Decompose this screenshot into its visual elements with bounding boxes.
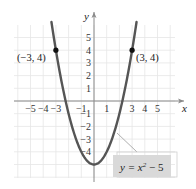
equation-label: y = x2 − 5 — [119, 161, 164, 173]
y-tick-label: 3 — [86, 57, 91, 68]
y-tick-label: 5 — [86, 32, 91, 43]
y-tick-label: −1 — [80, 108, 91, 119]
y-tick-label: 1 — [86, 83, 91, 94]
tick-labels: −5−4−3−1134554321−1−2−3−4 — [25, 32, 160, 157]
y-tick-label: 4 — [86, 45, 91, 56]
x-tick-label: −4 — [38, 103, 49, 114]
y-tick-label: −3 — [80, 134, 91, 145]
y-axis-label: y — [83, 10, 89, 22]
x-tick-label: 1 — [104, 103, 109, 114]
x-axis-label: x — [181, 102, 187, 114]
x-tick-label: 3 — [130, 103, 135, 114]
point-label-left: (−3, 4) — [17, 52, 46, 64]
x-tick-label: 4 — [142, 103, 147, 114]
callout-leader-line — [117, 133, 137, 152]
point-label-right: (3, 4) — [136, 52, 159, 64]
x-tick-label: −5 — [25, 103, 36, 114]
point-marker — [53, 48, 58, 53]
y-tick-label: 2 — [86, 70, 91, 81]
equation-callout: y = x2 − 5 — [113, 152, 177, 177]
point-marker — [130, 48, 135, 53]
parabola-chart: −5−4−3−1134554321−1−2−3−4 y = x2 − 5 (−3… — [0, 0, 196, 189]
x-tick-label: 5 — [155, 103, 160, 114]
y-tick-label: −2 — [80, 121, 91, 132]
x-tick-label: −3 — [51, 103, 62, 114]
